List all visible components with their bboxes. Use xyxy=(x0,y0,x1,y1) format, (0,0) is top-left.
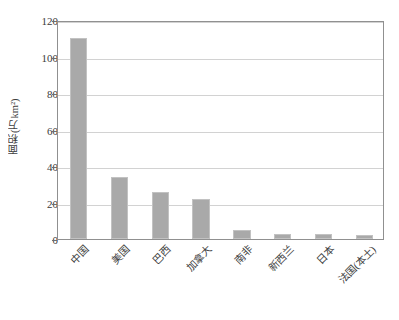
x-axis-tick-label: 法国(本土) xyxy=(336,244,377,285)
x-axis-tick-label: 南非 xyxy=(233,244,255,266)
gridline xyxy=(58,22,383,23)
x-axis-tick-label: 巴西 xyxy=(151,244,173,266)
y-axis-tick-mark xyxy=(52,240,57,241)
gridline xyxy=(58,132,383,133)
x-axis-tick-label: 新西兰 xyxy=(267,244,296,273)
x-axis-tick-label: 中国 xyxy=(69,244,91,266)
bar xyxy=(70,38,87,239)
bar xyxy=(356,235,373,239)
x-axis-tick-label: 加拿大 xyxy=(185,244,214,273)
gridline xyxy=(58,205,383,206)
gridline xyxy=(58,168,383,169)
gridline xyxy=(58,95,383,96)
x-axis-tick-label: 美国 xyxy=(110,244,132,266)
bar xyxy=(233,230,250,239)
bar xyxy=(274,234,291,239)
bar xyxy=(315,234,332,239)
bar-chart: 面积(万km²) 020406080100120 中国美国巴西加拿大南非新西兰日… xyxy=(0,0,399,320)
bar xyxy=(192,199,209,239)
plot-area xyxy=(57,21,384,240)
bar xyxy=(152,192,169,239)
x-axis-tick-label: 日本 xyxy=(315,244,337,266)
bar xyxy=(111,177,128,239)
y-axis-title: 面积(万km²) xyxy=(2,62,26,192)
gridline xyxy=(58,59,383,60)
